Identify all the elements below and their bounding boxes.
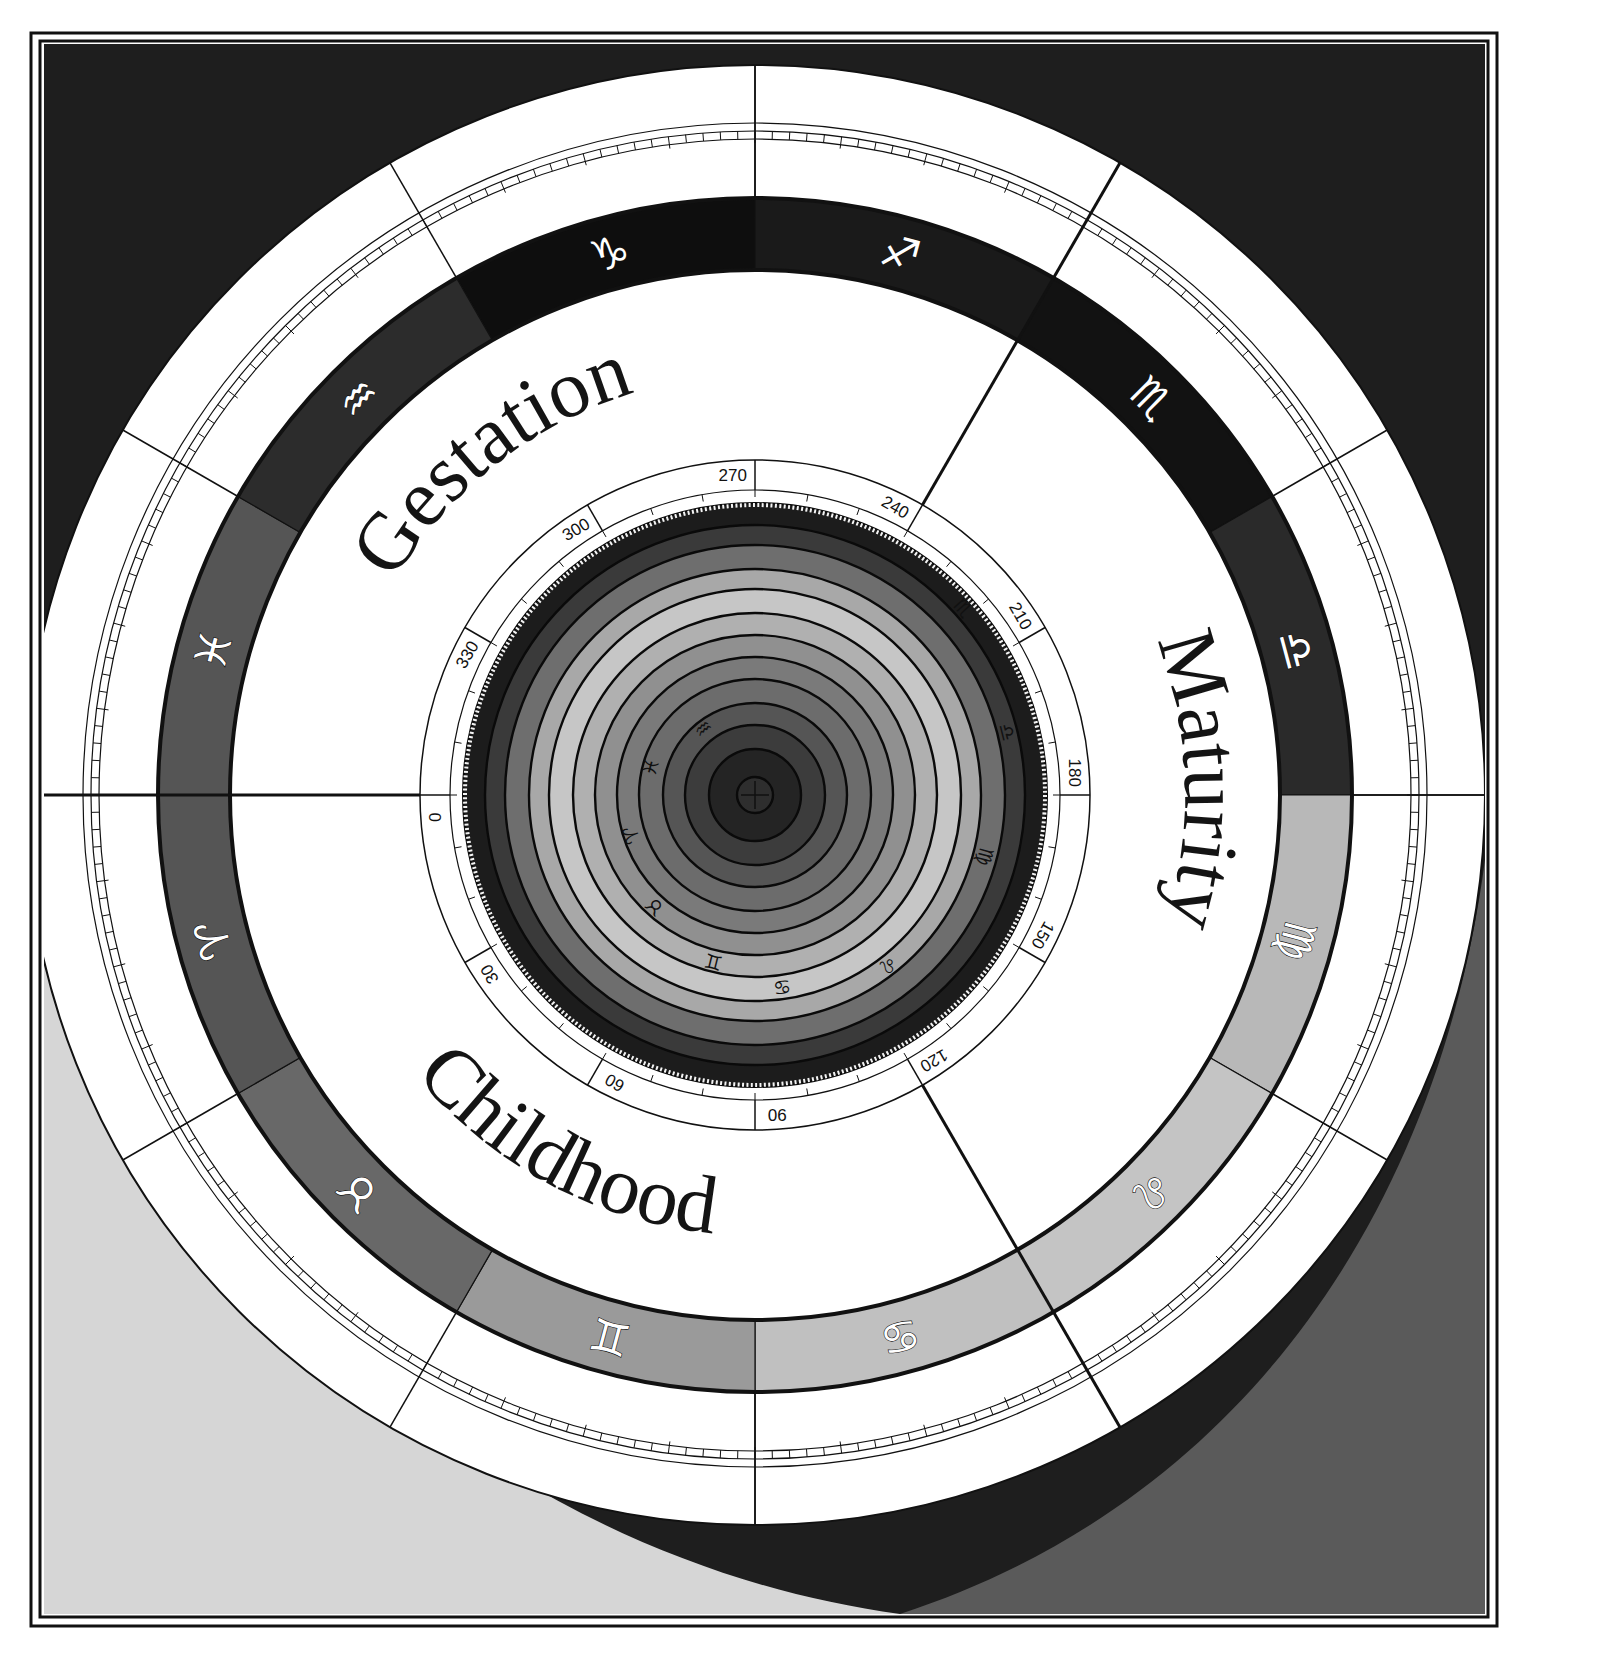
scale-tick bbox=[1409, 846, 1417, 847]
zodiac-life-cycle-diagram: ♑♐♏♎♍♌♋♊♉♈♓♒0306090120150180210240270300… bbox=[0, 0, 1604, 1661]
scale-tick bbox=[703, 1449, 704, 1457]
degree-label: 180 bbox=[1065, 758, 1084, 786]
degree-label: 0 bbox=[426, 813, 445, 822]
background-panel: ♑♐♏♎♍♌♋♊♉♈♓♒0306090120150180210240270300… bbox=[25, 44, 1485, 1614]
scale-tick bbox=[806, 1449, 807, 1457]
scale-tick bbox=[806, 133, 807, 141]
degree-label: 90 bbox=[768, 1105, 787, 1124]
scale-tick bbox=[93, 846, 101, 847]
scale-tick bbox=[703, 133, 704, 141]
scale-tick bbox=[1409, 743, 1417, 744]
scale-tick bbox=[93, 743, 101, 744]
inner-zodiac-glyph-icon: ♋ bbox=[771, 974, 792, 1000]
degree-label: 270 bbox=[718, 466, 746, 485]
